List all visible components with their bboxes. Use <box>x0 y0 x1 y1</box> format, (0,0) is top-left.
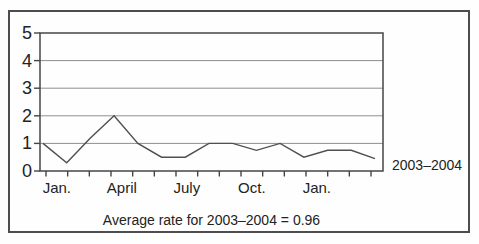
x-tick-label-jan-0: Jan. <box>25 180 89 195</box>
series-label: 2003–2004 <box>392 157 462 173</box>
y-tick-label-0: 0 <box>6 162 32 180</box>
x-tick-label-april-3: April <box>90 180 154 195</box>
y-tick-label-2: 2 <box>6 107 32 125</box>
line-chart <box>0 0 479 244</box>
y-tick-label-4: 4 <box>6 52 32 70</box>
y-tick-label-5: 5 <box>6 24 32 42</box>
rate-line-series <box>43 116 375 163</box>
chart-caption: Average rate for 2003–2004 = 0.96 <box>40 212 383 228</box>
y-tick-label-1: 1 <box>6 134 32 152</box>
x-tick-label-jan-12: Jan. <box>285 180 349 195</box>
x-tick-label-july-6: July <box>155 180 219 195</box>
y-tick-label-3: 3 <box>6 79 32 97</box>
x-tick-label-oct-9: Oct. <box>220 180 284 195</box>
figure: 012345 Jan.AprilJulyOct.Jan. 2003–2004 A… <box>0 0 479 244</box>
